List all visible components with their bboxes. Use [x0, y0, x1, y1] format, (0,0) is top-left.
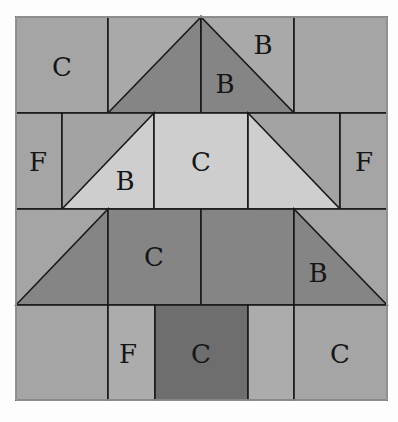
label-r1-tri-dark: B	[215, 69, 234, 99]
r3-center-right	[201, 209, 294, 305]
tree-quilt-block-diagram: C B B F B C F C B F C C	[0, 0, 398, 422]
label-r1-tri-light: B	[253, 30, 272, 60]
r1-right-square	[294, 17, 387, 113]
label-r1-left: C	[52, 52, 72, 82]
r4-right-strip	[248, 305, 294, 400]
label-r2-right: F	[355, 147, 373, 177]
label-r3-tri: B	[308, 258, 327, 288]
label-r2-tri: B	[115, 166, 134, 196]
label-r3-center: C	[144, 242, 164, 272]
label-r2-left: F	[29, 147, 47, 177]
label-r4-f: F	[119, 339, 137, 369]
label-r4-trunk: C	[191, 339, 211, 369]
label-r2-center: C	[191, 147, 211, 177]
label-r4-right: C	[330, 339, 350, 369]
r4-left-square	[16, 305, 108, 400]
